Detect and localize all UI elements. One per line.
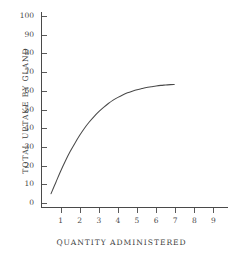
uptake-curve xyxy=(51,84,174,193)
x-axis-title: QUANTITY ADMINISTERED xyxy=(0,238,243,247)
x-tick-label: 1 xyxy=(58,217,63,225)
x-tick-label: 7 xyxy=(173,217,178,225)
x-tick-label: 5 xyxy=(135,217,140,225)
x-tick-label: 3 xyxy=(96,217,101,225)
x-axis-ticks xyxy=(61,208,214,213)
x-tick-label: 9 xyxy=(211,217,216,225)
y-axis-title: TOTAL UPTAKE BY GLAND xyxy=(21,16,30,206)
x-tick-label: 4 xyxy=(116,217,121,225)
y-axis-ticks xyxy=(42,17,47,204)
plot-area xyxy=(0,0,243,262)
chart-figure: 0102030405060708090100 123456789 QUANTIT… xyxy=(0,0,243,262)
x-tick-label: 2 xyxy=(77,217,82,225)
x-tick-label: 8 xyxy=(192,217,197,225)
x-tick-label: 6 xyxy=(154,217,159,225)
